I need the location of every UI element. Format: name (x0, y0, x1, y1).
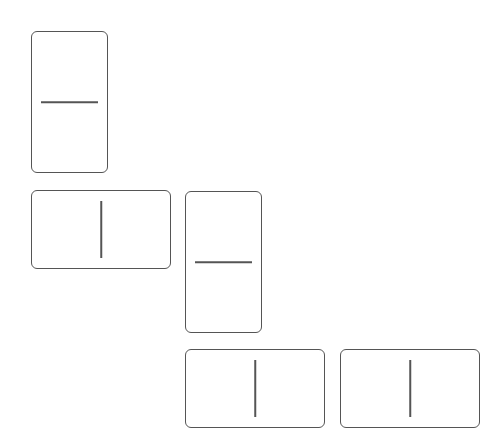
domino-half-blank (186, 192, 261, 262)
domino-half-blank (32, 191, 101, 268)
domino-half-blank (101, 191, 170, 268)
domino-half-blank (32, 32, 107, 102)
domino-half-blank (186, 262, 261, 332)
domino-tile-4[interactable] (185, 349, 325, 428)
domino-half-blank (410, 350, 479, 427)
domino-half-blank (32, 102, 107, 172)
domino-half-blank (255, 350, 324, 427)
domino-tile-5[interactable] (340, 349, 480, 428)
domino-tile-1[interactable] (31, 31, 108, 173)
domino-half-blank (341, 350, 410, 427)
domino-tile-3[interactable] (185, 191, 262, 333)
domino-half-blank (186, 350, 255, 427)
domino-tile-2[interactable] (31, 190, 171, 269)
